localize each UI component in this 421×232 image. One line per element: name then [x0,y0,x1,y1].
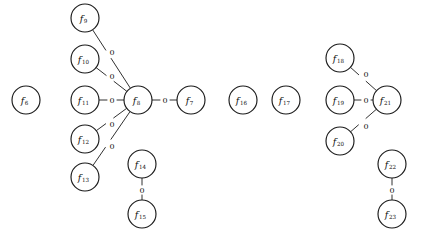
node-f17[interactable]: f17 [272,86,300,114]
graph-diagram: 00000000000 f6f9f10f11f12f13f8f7f14f15f1… [0,0,421,232]
node-f14[interactable]: f14 [128,150,156,178]
node-f22[interactable]: f22 [378,150,406,178]
edge-label-f11-f8: 0 [109,96,114,105]
edge-label-f19-f21: 0 [363,96,368,105]
node-f6[interactable]: f6 [12,86,40,114]
node-f12[interactable]: f12 [71,125,99,153]
node-f10[interactable]: f10 [71,45,99,73]
node-f20[interactable]: f20 [326,127,354,155]
edge-f12-f8 [96,124,106,131]
node-f18[interactable]: f18 [326,44,354,72]
edge-label-f13-f8: 0 [109,142,114,151]
node-f7[interactable]: f7 [177,86,205,114]
edge-f18-f21 [350,67,359,75]
edge-label-f8-f7: 0 [162,96,167,105]
node-f8[interactable]: f8 [124,86,152,114]
edge-f10-f8 [114,81,127,91]
node-f19[interactable]: f19 [326,86,354,114]
nodes-layer: f6f9f10f11f12f13f8f7f14f15f16f17f18f19f2… [12,4,406,228]
edge-label-f10-f8: 0 [109,72,114,81]
edge-label-f14-f15: 0 [139,186,144,195]
node-f11[interactable]: f11 [71,86,99,114]
edge-f13-f8 [93,147,106,165]
node-f21[interactable]: f21 [373,86,401,114]
edge-f20-f21 [366,109,377,118]
edge-f18-f21 [366,81,377,91]
node-f9[interactable]: f9 [71,4,99,32]
edge-label-f9-f8: 0 [109,48,114,57]
node-f16[interactable]: f16 [229,86,257,114]
edge-label-f20-f21: 0 [363,122,368,131]
edge-label-f18-f21: 0 [363,70,368,79]
edge-f9-f8 [93,30,106,51]
node-f23[interactable]: f23 [378,200,406,228]
edge-label-f22-f23: 0 [389,186,394,195]
node-f15[interactable]: f15 [128,200,156,228]
edge-f20-f21 [351,125,359,132]
edge-f12-f8 [113,108,126,118]
graph-svg: 00000000000 f6f9f10f11f12f13f8f7f14f15f1… [0,0,421,232]
edge-f10-f8 [96,68,106,76]
edge-label-f12-f8: 0 [109,120,114,129]
node-f13[interactable]: f13 [71,163,99,191]
